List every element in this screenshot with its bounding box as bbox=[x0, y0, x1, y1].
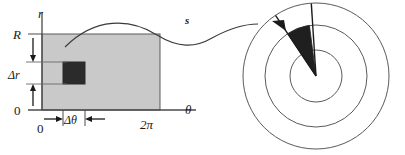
polar-cell-wedge bbox=[288, 25, 316, 76]
delta-cell-rectangle bbox=[63, 62, 85, 84]
theta-axis-label: θ bbox=[185, 102, 192, 117]
delta-theta-label: Δθ bbox=[63, 113, 77, 127]
delta-theta-left-arrowhead bbox=[56, 116, 63, 122]
origin-label-horizontal: 0 bbox=[37, 121, 44, 136]
origin-label-vertical: 0 bbox=[14, 103, 21, 118]
delta-r-upper-arrowhead bbox=[30, 55, 36, 62]
theta-max-label: 2π bbox=[140, 117, 154, 132]
r-axis-label: r bbox=[38, 6, 44, 21]
R-label: R bbox=[12, 27, 21, 42]
mapping-label-s: s bbox=[184, 14, 189, 26]
parameter-rectangle bbox=[42, 34, 160, 110]
polar-mapping-figure: r R Δr 0 0 Δθ 2π θ s bbox=[0, 0, 405, 155]
delta-r-lower-arrowhead bbox=[30, 84, 36, 91]
delta-theta-right-arrowhead bbox=[85, 116, 92, 122]
delta-r-label: Δr bbox=[7, 68, 20, 82]
figure-canvas: r R Δr 0 0 Δθ 2π θ s bbox=[0, 0, 405, 155]
mapping-arrowhead bbox=[272, 20, 286, 31]
